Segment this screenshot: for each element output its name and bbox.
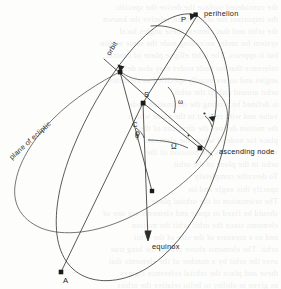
orbital-elements-figure: the considered surface the derive the sp… — [0, 0, 281, 289]
label-point-p: P — [181, 15, 186, 24]
label-perihelion: perihelion — [204, 9, 239, 18]
label-point-c: C — [132, 120, 138, 129]
aphelion-marker — [59, 270, 64, 275]
orbit-plane-secondary-arc — [151, 26, 216, 163]
label-equinox: equinox — [152, 242, 180, 251]
diagram-canvas: perihelion ascending node equinox plane … — [0, 0, 281, 289]
arc-argument-of-perihelion — [168, 87, 175, 113]
label-orbit: orbit — [104, 40, 120, 57]
arc-longitude-of-ascending-node — [148, 140, 188, 148]
orbit-direction-arrowheads — [118, 13, 216, 122]
point-markers — [59, 12, 206, 274]
label-angle-i: i — [211, 113, 213, 122]
label-angle-omega-lower: ω — [178, 97, 183, 106]
label-angle-omega-upper: Ω — [171, 142, 177, 151]
label-angle-phi: ϕ — [135, 131, 139, 140]
ascending-node-marker — [198, 146, 203, 151]
label-point-s: S — [144, 90, 149, 99]
label-plane-of-ecliptic: plane of ecliptic — [7, 119, 53, 161]
node-angle-vertex-dot — [188, 135, 190, 137]
apse-line-to-perihelion — [143, 16, 197, 103]
plane-of-ecliptic-ellipse — [15, 72, 228, 233]
sun-marker — [141, 101, 146, 106]
perihelion-marker — [193, 12, 197, 16]
descending-node-marker — [118, 70, 123, 75]
i-angle-vertex-dot — [203, 112, 205, 114]
apse-line-to-aphelion — [61, 103, 143, 272]
label-ascending-node: ascending node — [219, 147, 275, 156]
orbit-crossing-marker — [150, 189, 154, 193]
label-point-a: A — [63, 276, 69, 285]
